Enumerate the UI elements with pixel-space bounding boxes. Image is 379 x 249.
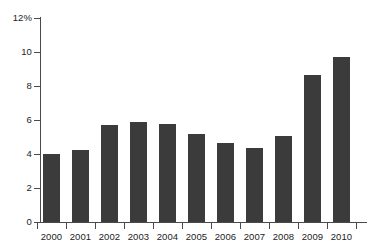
y-axis-tick-label: 0 <box>0 217 32 226</box>
y-axis-tick-label: 2 <box>0 183 32 192</box>
bar <box>217 143 234 222</box>
y-axis-tick-label: 10 <box>0 47 32 56</box>
x-axis-tick <box>240 223 241 229</box>
y-axis-tick-label-wrap: 10 <box>0 47 32 56</box>
x-axis-line <box>40 222 367 223</box>
bar-chart: 024681012% 20002001200220032004200520062… <box>0 0 379 249</box>
y-axis-tick-label: 12% <box>0 13 32 22</box>
x-axis-tick-label: 2006 <box>211 231 241 242</box>
x-axis-tick-label: 2001 <box>66 231 96 242</box>
x-axis-tick <box>124 223 125 229</box>
bar <box>333 57 350 222</box>
bar <box>159 124 176 222</box>
y-axis-tick-label-wrap: 0 <box>0 217 32 226</box>
bar <box>101 125 118 222</box>
y-axis-tick-label: 8 <box>0 81 32 90</box>
x-axis-tick <box>269 223 270 229</box>
x-axis-tick <box>37 223 38 229</box>
bar <box>43 154 60 222</box>
y-axis-tick <box>34 188 41 189</box>
x-axis-tick-label: 2007 <box>240 231 270 242</box>
bar <box>304 75 321 222</box>
x-axis-tick <box>211 223 212 229</box>
x-axis-tick <box>182 223 183 229</box>
x-axis-tick <box>66 223 67 229</box>
x-axis-tick <box>356 223 357 229</box>
x-axis-tick-label: 2010 <box>327 231 357 242</box>
x-axis-tick-label: 2002 <box>95 231 125 242</box>
y-axis-tick-label: 4 <box>0 149 32 158</box>
x-axis-tick-label: 2008 <box>269 231 299 242</box>
y-axis-tick-label-wrap: 8 <box>0 81 32 90</box>
y-axis-tick-label-wrap: 4 <box>0 149 32 158</box>
y-axis-tick-label: 6 <box>0 115 32 124</box>
y-axis-tick-label-wrap: 2 <box>0 183 32 192</box>
x-axis-tick <box>298 223 299 229</box>
x-axis-tick <box>153 223 154 229</box>
bar <box>130 122 147 222</box>
x-axis-tick <box>95 223 96 229</box>
x-axis-tick-label: 2009 <box>298 231 328 242</box>
x-axis-tick-label: 2000 <box>37 231 67 242</box>
x-axis-tick-label: 2005 <box>182 231 212 242</box>
y-axis-tick <box>34 86 41 87</box>
y-axis-tick <box>34 154 41 155</box>
x-axis-tick <box>327 223 328 229</box>
y-axis-tick <box>34 120 41 121</box>
y-axis-tick-label-wrap: 12% <box>0 13 32 22</box>
x-axis-tick-label: 2003 <box>124 231 154 242</box>
bar <box>188 134 205 222</box>
y-axis-tick-label-wrap: 6 <box>0 115 32 124</box>
y-axis-tick <box>34 18 41 19</box>
bar <box>275 136 292 222</box>
x-axis-tick-label: 2004 <box>153 231 183 242</box>
y-axis-tick <box>34 52 41 53</box>
bar <box>246 148 263 222</box>
bar <box>72 150 89 222</box>
